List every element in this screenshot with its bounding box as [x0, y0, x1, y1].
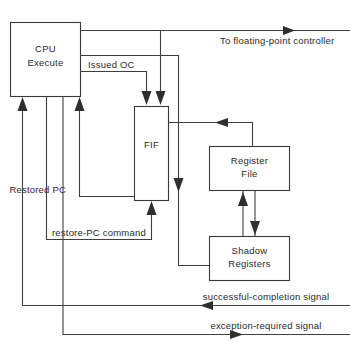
- block-fif: FIF: [135, 107, 169, 201]
- wire-to-floating-point-controller: To floating-point controller: [81, 26, 351, 46]
- arrowhead-top-bus-into-fif: [156, 91, 166, 105]
- register-file-label-line2: File: [241, 168, 257, 179]
- wire-restored-pc: Restored PC: [9, 97, 134, 197]
- wire-register-file-shadow-registers: [238, 191, 260, 237]
- arrowhead-register-file-to-fif: [215, 118, 228, 127]
- wire-restored-pc-path: [80, 102, 135, 197]
- arrowhead-rf-to-sr-down: [238, 192, 248, 206]
- register-file-label-line1: Register: [231, 155, 268, 166]
- diagram-canvas: CPU Execute FIF Register File Shadow Reg…: [0, 0, 358, 350]
- arrowhead-to-shadow-registers: [174, 178, 184, 192]
- block-cpu-execute: CPU Execute: [11, 23, 81, 97]
- wire-register-file-to-fif: [169, 118, 253, 147]
- arrowhead-successful-completion: [18, 97, 28, 111]
- wire-top-bus-into-fif: [156, 31, 166, 106]
- arrowhead-successful-completion-mid: [200, 301, 213, 310]
- fif-label: FIF: [144, 139, 159, 150]
- arrowhead-exception-required: [230, 330, 243, 339]
- label-successful-completion-signal: successful-completion signal: [203, 291, 330, 302]
- label-issued-oc: Issued OC: [88, 59, 135, 70]
- label-restore-pc-command: restore-PC command: [52, 227, 146, 238]
- label-restored-pc: Restored PC: [9, 184, 66, 195]
- arrowhead-issued-oc: [142, 91, 152, 105]
- arrowhead-sr-to-rf-up: [250, 221, 260, 235]
- shadow-registers-label-line2: Registers: [228, 258, 270, 269]
- shadow-registers-label-line1: Shadow: [232, 245, 268, 256]
- wire-register-file-to-fif-path: [169, 123, 253, 147]
- wire-restore-pc-command-path: [47, 97, 152, 240]
- arrowhead-restored-pc: [75, 97, 85, 111]
- wire-issued-oc: Issued OC: [81, 59, 152, 105]
- arrowhead-restore-pc-command: [147, 201, 157, 215]
- block-shadow-registers: Shadow Registers: [210, 237, 290, 281]
- label-to-floating-point-controller: To floating-point controller: [220, 35, 334, 46]
- cpu-execute-label-line1: CPU: [35, 43, 56, 54]
- cpu-execute-label-line2: Execute: [27, 57, 63, 68]
- block-diagram: CPU Execute FIF Register File Shadow Reg…: [0, 0, 358, 350]
- label-exception-required-signal: exception-required signal: [210, 320, 321, 331]
- wire-exception-required-signal: exception-required signal: [63, 97, 350, 340]
- wire-successful-completion-signal: successful-completion signal: [18, 97, 351, 310]
- arrowhead-fp-controller: [283, 26, 295, 35]
- fif-box: [135, 107, 169, 201]
- wire-successful-completion-path: [23, 102, 351, 306]
- block-register-file: Register File: [210, 147, 290, 191]
- wire-issued-oc-path: [81, 72, 147, 101]
